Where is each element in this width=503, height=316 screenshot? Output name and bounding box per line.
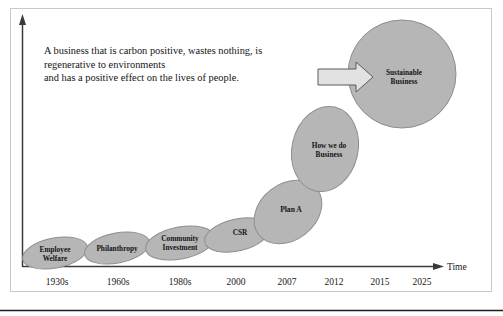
bubble-label-line1: Philanthropy xyxy=(96,244,138,253)
x-axis-tick-labels: 1930s 1960s 1980s 2000 2007 2012 2015 20… xyxy=(46,277,432,287)
caption-text: A business that is carbon positive, wast… xyxy=(44,44,344,85)
x-tick-label: 2012 xyxy=(325,277,344,287)
y-axis xyxy=(19,14,26,267)
x-axis-name: Time xyxy=(447,262,467,272)
x-tick-label: 1960s xyxy=(107,277,130,287)
bubble-label-line2: Business xyxy=(316,150,343,159)
x-tick-label: 2015 xyxy=(371,277,390,287)
x-tick-label: 1980s xyxy=(169,277,192,287)
bubble-label-line2: Welfare xyxy=(43,254,68,263)
bubble-label-line2: Business xyxy=(391,77,418,86)
x-tick-label: 2007 xyxy=(278,277,297,287)
figure-root: Employee Welfare Philanthropy Community … xyxy=(0,0,503,316)
bubble-employee-welfare[interactable]: Employee Welfare xyxy=(20,232,91,274)
bubble-label-line1: Employee xyxy=(40,245,72,254)
bubble-label-line1: Plan A xyxy=(280,205,302,214)
bubble-label-line1: Sustainable xyxy=(386,68,423,77)
bubble-philanthropy[interactable]: Philanthropy xyxy=(82,227,153,269)
x-tick-label: 2000 xyxy=(227,277,246,287)
x-axis-arrowhead xyxy=(433,263,444,270)
y-axis-arrowhead xyxy=(19,14,26,25)
bubble-label-line1: Community xyxy=(161,234,199,243)
x-axis xyxy=(23,263,445,270)
bubble-label-line1: CSR xyxy=(233,228,248,237)
x-tick-label: 1930s xyxy=(46,277,69,287)
x-tick-label: 2025 xyxy=(413,277,432,287)
bubble-label-line2: Investment xyxy=(163,243,198,252)
bubble-label-line1: How we do xyxy=(312,141,347,150)
